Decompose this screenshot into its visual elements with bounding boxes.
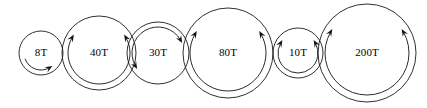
- gear-train-canvas: 8T40T30T80T10T200T: [0, 0, 427, 108]
- rotation-arc-80t: [190, 34, 266, 91]
- gear-label-200t: 200T: [355, 46, 379, 58]
- gear-label-80t: 80T: [219, 46, 237, 58]
- rotation-arc-8t: [25, 59, 49, 70]
- gear-8t[interactable]: 8T: [19, 31, 63, 75]
- gear-80t[interactable]: 80T: [183, 8, 273, 98]
- gear-label-30t: 30T: [149, 46, 167, 58]
- rotation-arrowhead-30t-start: [176, 35, 182, 43]
- gear-label-10t: 10T: [289, 46, 307, 58]
- gear-train-figure: 8T40T30T80T10T200T: [0, 0, 427, 108]
- rotation-arc-40t: [68, 38, 130, 84]
- gear-10t[interactable]: 10T: [273, 28, 323, 78]
- gear-layer: 8T40T30T80T10T200T: [19, 4, 416, 102]
- gear-label-8t: 8T: [35, 46, 48, 58]
- gear-200t[interactable]: 200T: [318, 4, 416, 102]
- gear-label-40t: 40T: [90, 46, 108, 58]
- gear-40t[interactable]: 40T: [62, 16, 136, 90]
- rotation-arc-200t: [325, 32, 409, 95]
